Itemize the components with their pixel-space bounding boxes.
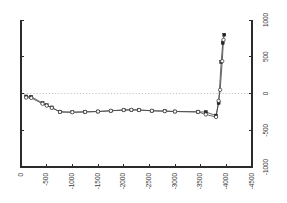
x-tick-label: -3500 — [196, 173, 203, 190]
data-point-circle — [137, 108, 140, 111]
data-point-circle — [222, 38, 225, 41]
x-tick-label: -3000 — [171, 173, 178, 190]
data-point-circle — [221, 59, 224, 62]
data-point-circle — [217, 99, 220, 102]
y-tick-label: -500 — [262, 123, 269, 136]
data-point-circle — [45, 104, 48, 107]
data-point-circle — [130, 108, 133, 111]
data-point-circle — [204, 113, 207, 116]
data-point-circle — [109, 109, 112, 112]
data-point-circle — [173, 110, 176, 113]
y-tick-label: -1000 — [262, 158, 269, 175]
y-tick-label: 500 — [262, 51, 269, 62]
data-point-circle — [83, 110, 86, 113]
data-point-circle — [196, 110, 199, 113]
chart-page: 0-500-1000-1500-2000-2500-3000-3500-4000… — [0, 0, 287, 203]
x-tick-label: -1000 — [68, 173, 75, 190]
data-point-circle — [218, 88, 221, 91]
y-tick-label: 0 — [262, 91, 269, 95]
data-point-circle — [163, 109, 166, 112]
data-point-circle — [50, 106, 53, 109]
data-point-circle — [30, 96, 33, 99]
x-tick-label: -1500 — [94, 173, 101, 190]
data-point-circle — [150, 109, 153, 112]
data-point-circle — [24, 96, 27, 99]
data-point-circle — [122, 108, 125, 111]
x-tick-label: -4000 — [222, 173, 229, 190]
x-tick-label: -2500 — [145, 173, 152, 190]
data-point-circle — [96, 110, 99, 113]
chart-canvas: 0-500-1000-1500-2000-2500-3000-3500-4000… — [0, 0, 287, 203]
data-point-circle — [214, 115, 217, 118]
data-point-square — [223, 33, 226, 36]
x-tick-label: -500 — [42, 173, 49, 186]
x-tick-label: 0 — [17, 173, 24, 177]
x-tick-label: -4500 — [248, 173, 255, 190]
data-point-circle — [71, 111, 74, 114]
x-tick-label: -2000 — [119, 173, 126, 190]
y-tick-label: 1000 — [262, 12, 269, 27]
data-point-circle — [41, 102, 44, 105]
data-point-circle — [58, 110, 61, 113]
